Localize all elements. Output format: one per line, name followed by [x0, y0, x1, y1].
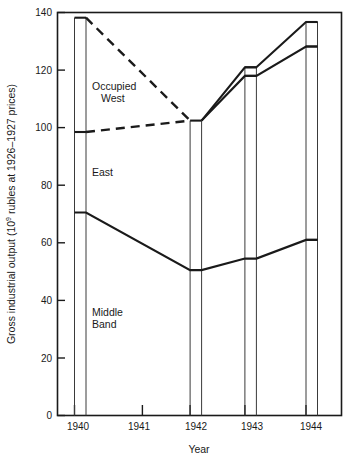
- x-axis-title: Year: [188, 443, 210, 455]
- band-label-middle-band-line2: Band: [92, 318, 117, 330]
- series-occupied-west-upper-dashed: [86, 18, 190, 121]
- bar-1942: [190, 121, 202, 416]
- y-ticklabel-100: 100: [35, 122, 52, 133]
- x-ticklabel-1944: 1944: [300, 421, 323, 432]
- series-middle-band-line: [75, 213, 318, 271]
- y-axis-tick-labels: 0 20 40 60 80 100 120 140: [35, 7, 52, 421]
- y-axis-title-prefix: Gross industrial output (10: [5, 221, 17, 344]
- y-ticklabel-20: 20: [41, 353, 53, 364]
- series-total-top-line: [202, 22, 318, 121]
- y-ticklabel-60: 60: [41, 237, 53, 248]
- x-ticklabel-1941: 1941: [128, 421, 151, 432]
- y-ticklabel-120: 120: [35, 65, 52, 76]
- band-label-occupied-west: Occupied West: [92, 80, 137, 104]
- chart-figure: 0 20 40 60 80 100 120 140 Gross industri…: [0, 0, 353, 461]
- x-ticklabel-1943: 1943: [241, 421, 264, 432]
- x-ticklabel-1940: 1940: [67, 421, 90, 432]
- series-east-dashed: [86, 121, 190, 132]
- band-label-east: East: [92, 166, 113, 178]
- band-label-occupied-west-line1: Occupied: [92, 80, 137, 92]
- y-ticklabel-0: 0: [46, 410, 52, 421]
- bar-1940: [75, 18, 87, 416]
- bar-1944: [306, 22, 318, 416]
- chart-svg: 0 20 40 60 80 100 120 140 Gross industri…: [0, 0, 353, 461]
- y-axis-title: Gross industrial output (109 rubles at 1…: [5, 84, 17, 344]
- bar-1943: [245, 67, 257, 415]
- x-axis-tick-labels: 1940 1941 1942 1943 1944: [67, 421, 323, 432]
- band-label-middle-band-line1: Middle: [92, 306, 123, 318]
- y-axis-title-suffix: rubles at 1926–1927 prices): [5, 84, 17, 217]
- y-ticklabel-40: 40: [41, 295, 53, 306]
- y-ticklabel-80: 80: [41, 180, 53, 191]
- x-ticklabel-1942: 1942: [185, 421, 208, 432]
- plot-frame: [58, 13, 342, 416]
- band-label-middle-band: Middle Band: [92, 306, 123, 330]
- y-ticklabel-140: 140: [35, 7, 52, 18]
- series-east-line: [202, 47, 318, 121]
- band-label-occupied-west-line2: West: [101, 92, 125, 104]
- y-axis-ticks: [58, 13, 66, 416]
